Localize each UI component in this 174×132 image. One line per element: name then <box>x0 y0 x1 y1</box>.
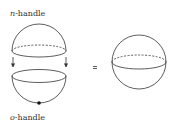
sphere-equator-front <box>112 62 166 69</box>
lower-hemisphere-point <box>37 101 41 105</box>
o-handle-label: o-handle <box>10 113 45 122</box>
lower-hemisphere-rim <box>12 70 66 83</box>
upper-hemisphere-rim-front <box>12 51 66 57</box>
sphere-outline <box>112 35 166 89</box>
o-handle-suffix: -handle <box>15 113 45 122</box>
lower-hemisphere-bowl <box>12 76 66 103</box>
sphere-equator-back <box>112 55 166 62</box>
upper-hemisphere-rim-back <box>12 45 66 51</box>
left-arrow-head <box>12 64 15 68</box>
right-arrow-head <box>65 64 68 68</box>
